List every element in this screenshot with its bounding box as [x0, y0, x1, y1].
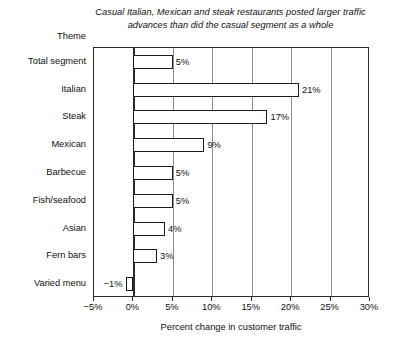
x-axis-tick-label: 10%: [202, 302, 221, 312]
bar: [133, 166, 172, 180]
x-axis-tick-label: 20%: [281, 302, 300, 312]
category-label: Asian: [0, 223, 86, 233]
category-label: Varied menu: [0, 278, 86, 288]
bar: [126, 277, 134, 291]
chart-figure: Casual Italian, Mexican and steak restau…: [0, 0, 393, 347]
category-label: Mexican: [0, 139, 86, 149]
x-axis-tick: [369, 297, 370, 301]
x-axis-tick: [211, 297, 212, 301]
bar-value-label: 9%: [207, 140, 220, 150]
bar: [133, 222, 165, 236]
category-label: Fern bars: [0, 250, 86, 260]
bar-value-label: −1%: [104, 279, 123, 289]
bar-value-label: 4%: [168, 224, 181, 234]
x-axis-tick-label: 30%: [360, 302, 379, 312]
bar-value-label: 17%: [270, 112, 289, 122]
bar-value-label: 5%: [176, 57, 189, 67]
x-axis-title: Percent change in customer traffic: [93, 322, 369, 332]
bar: [133, 55, 172, 69]
bar: [133, 249, 157, 263]
x-axis-tick-label: 0%: [126, 302, 139, 312]
bar-row: 5%: [94, 55, 368, 69]
bar-row: 17%: [94, 110, 368, 124]
y-axis-title: Theme: [0, 31, 86, 41]
x-axis-tick: [132, 297, 133, 301]
bar-value-label: 3%: [160, 251, 173, 261]
bar-row: −1%: [94, 277, 368, 291]
bar-row: 4%: [94, 222, 368, 236]
chart-title-line-1: Casual Italian, Mexican and steak restau…: [95, 7, 365, 17]
bar-row: 3%: [94, 249, 368, 263]
category-label: Fish/seafood: [0, 195, 86, 205]
category-label: Barbecue: [0, 167, 86, 177]
bar-row: 21%: [94, 83, 368, 97]
x-axis-tick-label: 15%: [241, 302, 260, 312]
x-axis-tick-label: 25%: [320, 302, 339, 312]
bar-value-label: 21%: [302, 85, 321, 95]
x-axis-tick-label: 5%: [165, 302, 178, 312]
category-label: Steak: [0, 111, 86, 121]
bar-row: 9%: [94, 138, 368, 152]
bar: [133, 194, 172, 208]
bar: [133, 83, 299, 97]
x-axis-tick: [93, 297, 94, 301]
bar-row: 5%: [94, 194, 368, 208]
x-axis-tick-label: −5%: [84, 302, 103, 312]
category-label: Total segment: [0, 56, 86, 66]
category-label: Italian: [0, 84, 86, 94]
x-axis-tick: [330, 297, 331, 301]
x-axis-tick: [172, 297, 173, 301]
x-axis-tick: [290, 297, 291, 301]
x-axis-tick: [251, 297, 252, 301]
bar: [133, 110, 267, 124]
bar-value-label: 5%: [176, 196, 189, 206]
chart-title-line-2: advances than did the casual segment as …: [128, 20, 334, 30]
chart-title: Casual Italian, Mexican and steak restau…: [88, 6, 373, 31]
bar-row: 5%: [94, 166, 368, 180]
bar: [133, 138, 204, 152]
bar-value-label: 5%: [176, 168, 189, 178]
plot-area: 5%21%17%9%5%5%4%3%−1%: [93, 47, 369, 297]
